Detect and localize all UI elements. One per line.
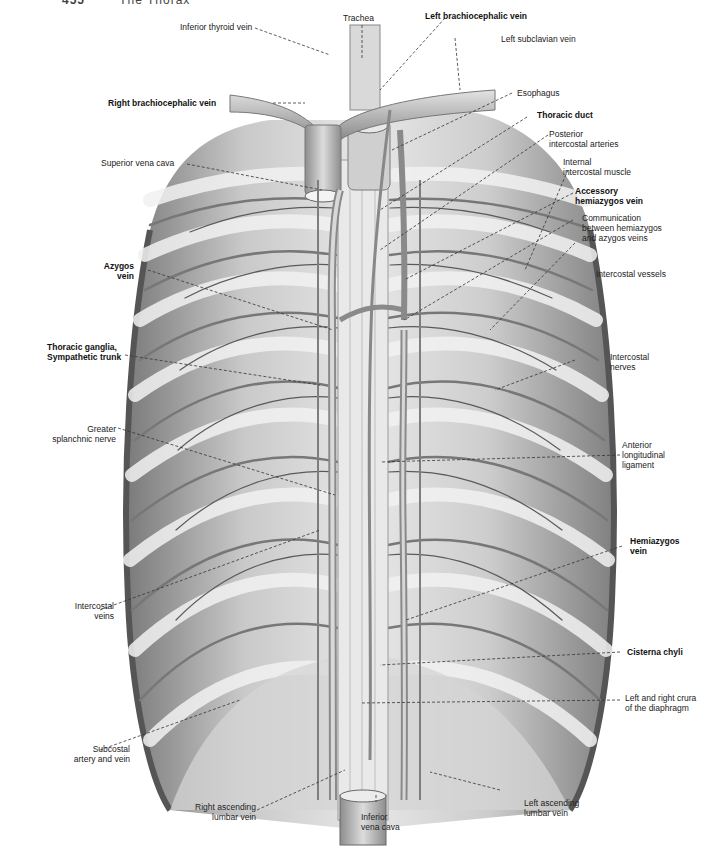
- label-left-brachiocephalic-vein: Left brachiocephalic vein: [425, 11, 527, 21]
- label-superior-vena-cava: Superior vena cava: [101, 158, 174, 168]
- label-inferior-vena-cava: Inferior vena cava: [361, 812, 400, 832]
- vertebral-column: [338, 160, 388, 820]
- label-trachea: Trachea: [343, 13, 374, 23]
- label-intercostal-nerves: Intercostal nerves: [610, 352, 649, 372]
- label-accessory-hemiazygos-vein: Accessory hemiazygos vein: [575, 186, 643, 206]
- label-azygos-vein: Azygos vein: [100, 261, 134, 281]
- label-right-ascending-lumbar-vein: Right ascending lumbar vein: [185, 802, 256, 822]
- label-left-ascending-lumbar-vein: Left ascending lumbar vein: [524, 798, 579, 818]
- label-right-brachiocephalic-vein: Right brachiocephalic vein: [108, 98, 216, 108]
- label-greater-splanchnic-nerve: Greater splanchnic nerve: [50, 424, 116, 444]
- label-crura-diaphragm: Left and right crura of the diaphragm: [625, 693, 696, 713]
- label-communication-hemiazygos-azygos: Communication between hemiazygos and azy…: [582, 213, 662, 243]
- label-posterior-intercostal-arteries: Posterior intercostal arteries: [549, 129, 618, 149]
- label-anterior-longitudinal-ligament: Anterior longitudinal ligament: [622, 440, 665, 470]
- label-left-subclavian-vein: Left subclavian vein: [501, 34, 576, 44]
- label-subcostal-artery-vein: Subcostal artery and vein: [60, 744, 130, 764]
- label-intercostal-vessels: Intercostal vessels: [596, 269, 666, 279]
- trachea: [350, 25, 380, 110]
- label-esophagus: Esophagus: [517, 88, 560, 98]
- label-hemiazygos-vein: Hemiazygos vein: [630, 536, 680, 556]
- label-internal-intercostal-muscle: Internal intercostal muscle: [563, 157, 631, 177]
- label-thoracic-duct: Thoracic duct: [537, 110, 593, 120]
- label-cisterna-chyli: Cisterna chyli: [627, 647, 683, 657]
- label-intercostal-veins: Intercostal veins: [60, 601, 114, 621]
- label-inferior-thyroid-vein: Inferior thyroid vein: [180, 22, 252, 32]
- label-thoracic-ganglia-sympathetic-trunk: Thoracic ganglia, Sympathetic trunk: [47, 342, 121, 362]
